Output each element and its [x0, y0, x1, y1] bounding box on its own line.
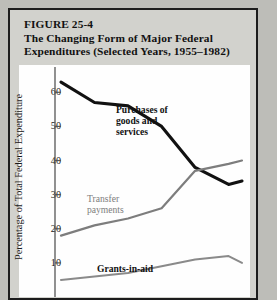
figure-title-line-1: The Changing Form of Major Federal	[24, 32, 248, 46]
series-label-line: goods and	[116, 115, 196, 126]
series-label-line: services	[116, 126, 196, 137]
figure-caption: FIGURE 25-4 The Changing Form of Major F…	[24, 18, 248, 59]
series-label-line: Purchases of	[116, 104, 196, 115]
series-label-line: payments	[87, 204, 147, 215]
series-label-transfer: Transferpayments	[87, 193, 147, 215]
figure-container: FIGURE 25-4 The Changing Form of Major F…	[8, 8, 258, 300]
y-axis	[55, 67, 61, 297]
series-label-purchases: Purchases ofgoods andservices	[116, 104, 196, 137]
figure-number: FIGURE 25-4	[24, 18, 248, 32]
figure-title-line-2: Expenditures (Selected Years, 1955–1982)	[24, 45, 248, 59]
chart-plot-area: Percentage of Total Federal Expenditure …	[19, 65, 250, 297]
series-label-line: Grants-in-aid	[97, 263, 187, 274]
series-label-line: Transfer	[87, 193, 147, 204]
series-label-grants: Grants-in-aid	[97, 263, 187, 274]
